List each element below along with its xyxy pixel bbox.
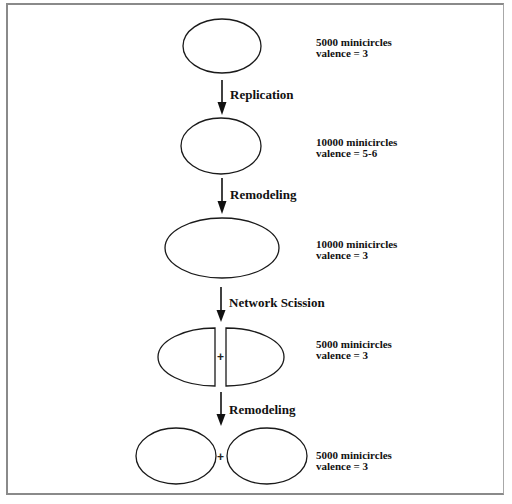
transition-remodeling-2: Remodeling — [217, 392, 296, 426]
kdna-network-diagram: 5000 minicircles valence = 3 Replication… — [0, 0, 512, 504]
daughter-network-left — [136, 428, 216, 484]
arrowhead-icon — [218, 102, 227, 115]
network-ellipse — [183, 19, 261, 73]
network-ellipse — [181, 118, 261, 174]
right-half-network — [226, 328, 284, 386]
transition-remodeling-1: Remodeling — [218, 178, 297, 214]
stage-2-valence: valence = 5-6 — [316, 147, 378, 159]
transition-replication: Replication — [218, 80, 295, 115]
transition-label: Remodeling — [229, 402, 296, 417]
stage-3-valence: valence = 3 — [316, 249, 369, 261]
arrowhead-icon — [217, 310, 226, 322]
left-half-network — [158, 328, 215, 386]
arrowhead-icon — [217, 414, 226, 426]
stage-1-valence: valence = 3 — [316, 47, 369, 59]
stage-5-valence: valence = 3 — [316, 460, 369, 472]
daughter-network-right — [227, 428, 307, 484]
network-ellipse-elongated — [165, 218, 279, 278]
stage-5: + 5000 minicircles valence = 3 — [136, 428, 393, 484]
stage-1: 5000 minicircles valence = 3 — [183, 19, 393, 73]
stage-3: 10000 minicircles valence = 3 — [165, 218, 398, 278]
stage-4: + 5000 minicircles valence = 3 — [158, 328, 393, 386]
plus-sign: + — [217, 450, 224, 464]
transition-label: Network Scission — [229, 295, 325, 310]
stage-4-valence: valence = 3 — [316, 349, 369, 361]
transition-label: Replication — [230, 87, 294, 102]
stage-2: 10000 minicircles valence = 5-6 — [181, 118, 398, 174]
plus-sign: + — [217, 350, 224, 364]
arrowhead-icon — [218, 201, 227, 214]
transition-label: Remodeling — [230, 187, 297, 202]
transition-network-scission: Network Scission — [217, 287, 326, 322]
